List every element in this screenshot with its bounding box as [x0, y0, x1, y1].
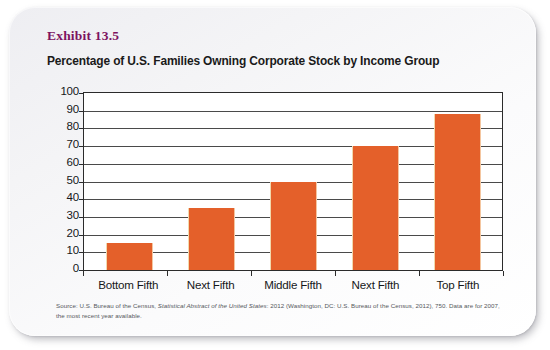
y-tick-label: 90	[67, 104, 79, 116]
chart-title: Percentage of U.S. Families Owning Corpo…	[47, 54, 439, 68]
x-axis-labels: Bottom FifthNext FifthMiddle FifthNext F…	[83, 278, 503, 291]
x-tick-mark	[335, 271, 336, 276]
x-axis-ticks	[83, 271, 503, 277]
y-axis: 1009080706050403020100	[47, 92, 83, 275]
x-tick-label: Top Fifth	[417, 278, 499, 291]
x-tick-mark	[251, 271, 252, 276]
y-tick-label: 30	[67, 210, 79, 222]
y-tick-label: 50	[67, 175, 79, 187]
x-tick-mark	[83, 271, 84, 276]
y-tick-label: 10	[67, 246, 79, 258]
source-note: Source: U.S. Bureau of the Census, Stati…	[56, 301, 506, 321]
y-tick-label: 0	[73, 263, 79, 275]
y-tick-label: 80	[67, 122, 79, 134]
bar-slot	[416, 93, 498, 270]
y-tick-label: 70	[67, 139, 79, 151]
bar-slot	[88, 93, 170, 270]
x-tick-mark	[503, 271, 504, 276]
bar-slot	[252, 93, 334, 270]
y-tick-label: 20	[67, 228, 79, 240]
x-tick-mark	[167, 271, 168, 276]
bar-slot	[334, 93, 416, 270]
y-tick-label: 60	[67, 157, 79, 169]
exhibit-label: Exhibit 13.5	[47, 28, 119, 44]
chart-plot-wrapper: 1009080706050403020100 Bottom FifthNext …	[47, 92, 503, 280]
bar[interactable]	[352, 146, 399, 270]
source-note-italic-title: Statistical Abstract of the United State…	[158, 302, 267, 309]
bar[interactable]	[434, 114, 481, 270]
x-tick-label: Bottom Fifth	[87, 278, 169, 291]
x-tick-label: Middle Fifth	[252, 278, 334, 291]
bar[interactable]	[270, 182, 317, 271]
y-tick-label: 40	[67, 192, 79, 204]
bar-series	[84, 93, 502, 270]
y-tick-label: 100	[60, 86, 79, 98]
source-note-prefix: Source: U.S. Bureau of the Census,	[56, 302, 158, 309]
plot-area	[83, 92, 503, 271]
bar[interactable]	[188, 208, 235, 270]
exhibit-page: Exhibit 13.5 Percentage of U.S. Families…	[0, 0, 550, 350]
x-tick-label: Next Fifth	[334, 278, 416, 291]
x-tick-mark	[419, 271, 420, 276]
x-tick-label: Next Fifth	[169, 278, 251, 291]
exhibit-card: Exhibit 13.5 Percentage of U.S. Families…	[9, 7, 536, 336]
bar[interactable]	[106, 243, 153, 270]
bar-slot	[170, 93, 252, 270]
